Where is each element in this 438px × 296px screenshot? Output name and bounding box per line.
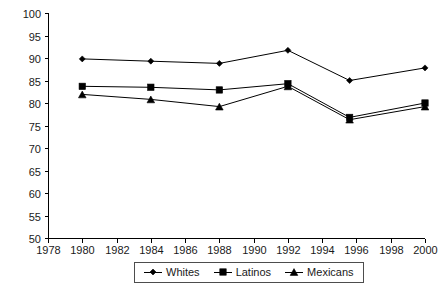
x-axis-tick-label: 1992 <box>276 244 300 256</box>
x-axis-tick-label: 1996 <box>344 244 368 256</box>
data-point <box>148 84 154 90</box>
data-point <box>285 47 291 53</box>
data-point <box>79 56 85 62</box>
x-axis-tick-label: 1982 <box>105 244 129 256</box>
data-point <box>347 78 353 84</box>
line-chart: 50556065707580859095100 1978198019821984… <box>0 0 438 296</box>
y-axis-tick-label: 90 <box>29 53 41 65</box>
x-axis-tick-label: 1998 <box>379 244 403 256</box>
data-point <box>422 65 428 71</box>
y-axis-tick-label: 80 <box>29 98 41 110</box>
x-axis-tick-label: 1986 <box>173 244 197 256</box>
y-axis-tick-label: 75 <box>29 121 41 133</box>
chart-plot-area: 50556065707580859095100 1978198019821984… <box>0 0 438 296</box>
series-mexicans <box>78 83 428 123</box>
x-axis-tick-label: 1988 <box>207 244 231 256</box>
legend-item-label: Whites <box>166 266 200 278</box>
data-point <box>216 60 222 66</box>
legend-item-whites: Whites <box>144 266 200 278</box>
x-axis-tick-label: 2000 <box>413 244 437 256</box>
y-axis-tick-label: 70 <box>29 143 41 155</box>
x-axis-tick-label: 1984 <box>139 244 163 256</box>
triangle-marker-icon <box>285 266 303 278</box>
y-axis-tick-label: 65 <box>29 166 41 178</box>
y-axis-tick-label: 95 <box>29 31 41 43</box>
series-latinos <box>79 80 428 120</box>
y-axis-tick-label: 60 <box>29 188 41 200</box>
legend-item-mexicans: Mexicans <box>285 266 353 278</box>
chart-legend: WhitesLatinosMexicans <box>134 262 364 283</box>
square-marker-icon <box>214 266 232 278</box>
x-axis-tick-label: 1994 <box>310 244 334 256</box>
y-axis-tick-label: 100 <box>23 8 41 20</box>
data-point <box>216 87 222 93</box>
x-axis-tick-label: 1978 <box>36 244 60 256</box>
x-axis-tick-label: 1980 <box>70 244 94 256</box>
y-axis-tick-label: 55 <box>29 211 41 223</box>
y-axis-tick-label: 85 <box>29 76 41 88</box>
y-axis: 50556065707580859095100 <box>23 8 49 245</box>
data-point <box>148 58 154 64</box>
series-whites <box>79 47 428 83</box>
diamond-marker-icon <box>144 266 162 278</box>
data-series-group <box>78 47 428 123</box>
legend-item-label: Latinos <box>236 266 271 278</box>
legend-item-latinos: Latinos <box>214 266 271 278</box>
x-axis: 1978198019821984198619881990199219941996… <box>36 239 437 257</box>
x-axis-tick-label: 1990 <box>242 244 266 256</box>
y-axis-tick-label: 50 <box>29 233 41 245</box>
data-point <box>79 83 85 89</box>
legend-item-label: Mexicans <box>307 266 353 278</box>
